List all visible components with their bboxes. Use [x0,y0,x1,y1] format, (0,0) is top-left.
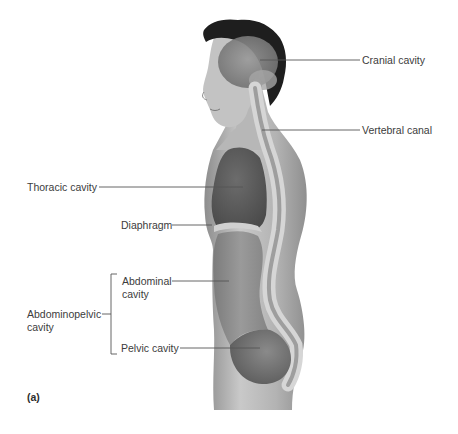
label-cranial-cavity: Cranial cavity [362,54,425,67]
bracket [111,274,117,354]
label-diaphragm: Diaphragm [121,219,172,232]
label-abdominopelvic-line2: cavity [27,321,101,334]
panel-label: (a) [27,391,40,403]
label-pelvic-cavity: Pelvic cavity [121,342,179,355]
label-vertebral-canal: Vertebral canal [362,124,432,137]
label-abdominopelvic-cavity: Abdominopelvic cavity [27,308,101,333]
label-abdominal-line1: Abdominal [122,275,172,288]
label-abdominopelvic-line1: Abdominopelvic [27,308,101,321]
label-thoracic-cavity: Thoracic cavity [27,181,97,194]
label-abdominal-cavity: Abdominal cavity [122,275,172,300]
label-abdominal-line2: cavity [122,288,172,301]
body-cavities-figure: Cranial cavity Vertebral canal Thoracic … [0,0,458,434]
